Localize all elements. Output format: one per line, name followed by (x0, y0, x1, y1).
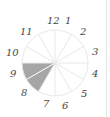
label-11: 11 (20, 26, 33, 37)
label-3: 3 (92, 46, 98, 57)
label-7: 7 (43, 98, 50, 109)
right-edge-divider (106, 0, 107, 117)
label-12: 12 (47, 15, 60, 26)
label-2: 2 (79, 26, 86, 37)
label-1: 1 (65, 15, 71, 26)
label-9: 9 (10, 68, 17, 79)
clock-fraction-diagram: 12 1 2 3 4 5 6 7 8 9 10 11 (0, 0, 110, 117)
label-4: 4 (91, 68, 98, 79)
label-6: 6 (62, 100, 69, 111)
label-5: 5 (81, 88, 87, 99)
label-10: 10 (6, 47, 19, 58)
label-8: 8 (21, 87, 27, 98)
